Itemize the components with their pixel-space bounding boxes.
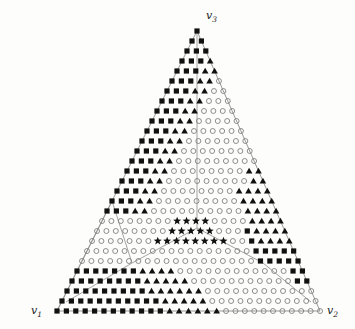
- filled-square-marker: [144, 298, 149, 303]
- open-circle-marker: [216, 99, 221, 104]
- open-circle-marker: [225, 269, 230, 274]
- open-circle-marker: [238, 149, 243, 154]
- open-circle-marker: [211, 109, 216, 114]
- open-circle-marker: [232, 199, 237, 204]
- open-circle-marker: [276, 299, 281, 304]
- filled-square-marker: [121, 288, 126, 293]
- filled-star-marker: [178, 227, 186, 235]
- open-circle-marker: [257, 299, 262, 304]
- filled-square-marker: [189, 38, 194, 43]
- open-circle-marker: [137, 219, 142, 224]
- open-circle-marker: [294, 299, 299, 304]
- filled-triangle-marker: [282, 228, 289, 234]
- open-circle-marker: [136, 239, 141, 244]
- open-circle-marker: [89, 259, 94, 264]
- filled-triangle-marker: [156, 178, 163, 184]
- filled-triangle-marker: [166, 158, 173, 164]
- filled-triangle-marker: [149, 268, 156, 274]
- filled-triangle-marker: [142, 188, 149, 194]
- filled-square-marker: [174, 68, 179, 73]
- filled-triangle-marker: [152, 168, 159, 174]
- filled-triangle-marker: [197, 78, 204, 84]
- filled-triangle-marker: [176, 138, 183, 144]
- open-circle-marker: [226, 229, 231, 234]
- filled-square-marker: [124, 168, 129, 173]
- filled-triangle-marker: [146, 198, 153, 204]
- filled-square-marker: [304, 278, 309, 283]
- filled-square-marker: [154, 108, 159, 113]
- open-circle-marker: [266, 299, 271, 304]
- open-circle-marker: [204, 179, 209, 184]
- open-circle-marker: [189, 209, 194, 214]
- filled-star-marker: [154, 237, 162, 245]
- open-circle-marker: [215, 269, 220, 274]
- filled-square-marker: [169, 78, 174, 83]
- open-circle-marker: [173, 259, 178, 264]
- filled-triangle-marker: [132, 208, 139, 214]
- filled-square-marker: [104, 208, 109, 213]
- filled-triangle-marker: [181, 128, 188, 134]
- open-circle-marker: [165, 219, 170, 224]
- filled-square-marker: [159, 118, 164, 123]
- filled-triangle-marker: [172, 128, 179, 134]
- filled-square-marker: [258, 258, 263, 263]
- filled-triangle-marker: [245, 208, 252, 214]
- filled-square-marker: [153, 148, 158, 153]
- filled-square-marker: [184, 48, 189, 53]
- filled-square-marker: [119, 198, 124, 203]
- filled-square-marker: [188, 78, 193, 83]
- filled-triangle-marker: [263, 228, 270, 234]
- filled-triangle-marker: [255, 188, 262, 194]
- open-circle-marker: [151, 229, 156, 234]
- filled-square-marker: [199, 38, 204, 43]
- filled-square-marker: [92, 308, 97, 313]
- filled-square-marker: [93, 288, 98, 293]
- open-circle-marker: [236, 209, 241, 214]
- open-circle-marker: [237, 169, 242, 174]
- open-circle-marker: [205, 159, 210, 164]
- filled-square-marker: [129, 178, 134, 183]
- filled-triangle-marker: [171, 298, 178, 304]
- filled-triangle-marker: [258, 238, 265, 244]
- open-circle-marker: [146, 219, 151, 224]
- filled-square-marker: [125, 298, 130, 303]
- open-circle-marker: [201, 129, 206, 134]
- open-circle-marker: [227, 189, 232, 194]
- open-circle-marker: [244, 249, 249, 254]
- open-circle-marker: [94, 249, 99, 254]
- filled-triangle-marker: [171, 148, 178, 154]
- filled-square-marker: [178, 98, 183, 103]
- filled-square-marker: [54, 308, 59, 313]
- filled-square-marker: [295, 258, 300, 263]
- open-circle-marker: [230, 239, 235, 244]
- open-circle-marker: [113, 249, 118, 254]
- filled-triangle-marker: [167, 288, 174, 294]
- filled-square-marker: [149, 138, 154, 143]
- open-circle-marker: [191, 129, 196, 134]
- filled-triangle-marker: [186, 118, 193, 124]
- open-circle-marker: [223, 159, 228, 164]
- open-circle-marker: [218, 189, 223, 194]
- open-circle-marker: [211, 89, 216, 94]
- filled-square-marker: [69, 298, 74, 303]
- open-circle-marker: [201, 109, 206, 114]
- filled-triangle-marker: [277, 218, 284, 224]
- filled-triangle-marker: [195, 288, 202, 294]
- open-circle-marker: [215, 119, 220, 124]
- open-circle-marker: [240, 219, 245, 224]
- filled-star-marker: [182, 237, 190, 245]
- open-circle-marker: [209, 169, 214, 174]
- diagram-canvas: v1v2v3: [0, 0, 355, 329]
- open-circle-marker: [205, 289, 210, 294]
- open-circle-marker: [178, 249, 183, 254]
- filled-triangle-marker: [267, 238, 274, 244]
- open-circle-marker: [208, 209, 213, 214]
- open-circle-marker: [238, 299, 243, 304]
- open-circle-marker: [146, 239, 151, 244]
- filled-square-marker: [135, 278, 140, 283]
- filled-triangle-marker: [273, 208, 280, 214]
- open-circle-marker: [181, 149, 186, 154]
- filled-square-marker: [291, 248, 296, 253]
- open-circle-marker: [151, 209, 156, 214]
- filled-star-marker: [173, 217, 181, 225]
